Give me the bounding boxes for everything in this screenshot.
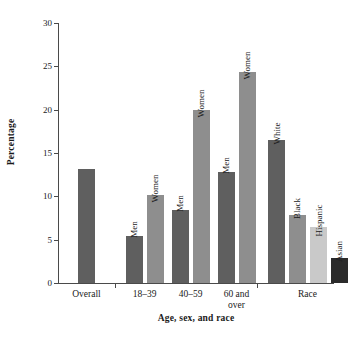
bar-label-age-60-men: Men — [221, 148, 233, 170]
y-axis-tick-label: 15 — [12, 149, 52, 158]
bar-label-age-60-women: Women — [242, 39, 254, 70]
bar-race-black: Black — [289, 215, 306, 283]
x-axis-tick — [115, 283, 116, 288]
x-axis-line — [58, 283, 334, 284]
bar-age-40-59-women: Women — [193, 110, 210, 283]
bar-label-text: White — [272, 123, 281, 145]
bar-label-age-18-39-women: Women — [150, 162, 162, 193]
x-axis-group-label-race: Race — [268, 289, 348, 300]
bar-race-hispanic: Hispanic — [310, 227, 327, 283]
bar-overall — [78, 169, 95, 283]
bar-race-white: White — [268, 140, 285, 283]
bar-label-text: Women — [243, 52, 252, 80]
bar-age-60-women: Women — [239, 72, 256, 283]
y-axis-tick-label: 30 — [12, 19, 52, 28]
bar-age-60-men: Men — [218, 172, 235, 283]
bar-label-text: Black — [293, 198, 302, 219]
bar-label-age-40-59-men: Men — [175, 186, 187, 208]
bar-label-text: Hispanic — [314, 204, 323, 236]
y-axis-tick-label: 20 — [12, 105, 52, 114]
bar-label-race-black: Black — [292, 182, 304, 213]
x-axis-group-label-age-60: 60 and over — [197, 289, 277, 310]
x-axis-title: Age, sex, and race — [58, 313, 334, 323]
bar-age-40-59-men: Men — [172, 210, 189, 283]
bar-age-18-39-men: Men — [126, 236, 143, 283]
y-axis-tick-label: 5 — [12, 235, 52, 244]
bar-age-18-39-women: Women — [147, 195, 164, 283]
bar-race-asian: Asian — [331, 258, 348, 283]
bar-label-text: Women — [151, 174, 160, 202]
bar-label-text: Men — [176, 195, 185, 212]
bar-label-race-asian: Asian — [334, 225, 346, 256]
y-axis-title-text: Percentage — [6, 118, 16, 165]
bar-label-text: Asian — [335, 241, 344, 262]
bar-label-race-hispanic: Hispanic — [313, 180, 325, 225]
bar-label-age-18-39-men: Men — [129, 212, 141, 234]
bar-chart: Percentage 051015202530 MenWomenMenWomen… — [0, 0, 348, 337]
x-axis-tick — [257, 283, 258, 288]
bar-label-text: Men — [222, 157, 231, 174]
y-axis-tick-label: 0 — [12, 279, 52, 288]
y-axis-tick-label: 10 — [12, 192, 52, 201]
plot-area: MenWomenMenWomenMenWomenWhiteBlackHispan… — [58, 23, 334, 283]
bar-label-race-white: White — [271, 107, 283, 138]
bar-label-text: Women — [197, 89, 206, 117]
bar-label-text: Men — [130, 221, 139, 238]
y-axis-tick-label: 25 — [12, 62, 52, 71]
bar-label-age-40-59-women: Women — [196, 77, 208, 108]
